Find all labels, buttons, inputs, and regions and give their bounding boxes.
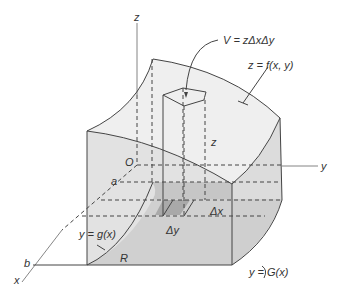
region-label: R (120, 252, 128, 264)
surface-label: z = f(x, y) (247, 59, 294, 71)
column-height-label: z (210, 136, 217, 148)
volume-diagram: z y x O a b V = zΔxΔy z = f(x, y) z Δx Δ… (0, 0, 343, 298)
b-label: b (24, 257, 30, 269)
volume-formula-label: V = zΔxΔy (223, 34, 276, 46)
x-axis-label: x (13, 274, 20, 286)
right-lower-face (232, 199, 282, 265)
origin-label: O (125, 156, 134, 168)
y-axis-label: y (320, 160, 328, 172)
a-label: a (111, 175, 117, 187)
z-axis-label: z (133, 11, 140, 23)
delta-y-label: Δy (165, 224, 180, 236)
G-curve-label: y = G(x) (248, 266, 289, 278)
g-curve-label: y = g(x) (78, 228, 116, 240)
delta-x-label: Δx (209, 205, 223, 217)
x-axis-outer (22, 230, 62, 282)
